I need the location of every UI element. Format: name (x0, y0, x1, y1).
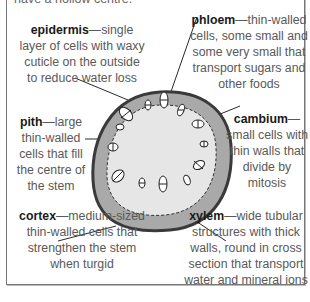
label-pith: pith—large thin-walled cells that fill t… (12, 114, 90, 194)
term-cambium: cambium (234, 112, 288, 126)
label-xylem: xylem—wide tubular structures with thick… (183, 208, 309, 288)
label-cambium: cambium— small cells with thin walls tha… (226, 111, 308, 191)
label-epidermis: epidermis—single layer of cells with wax… (14, 22, 150, 86)
term-epidermis: epidermis (31, 23, 89, 37)
term-pith: pith (20, 115, 43, 129)
term-cortex: cortex (19, 209, 56, 223)
term-phloem: phloem (192, 13, 236, 27)
label-phloem: phloem—thin-walled cells, some small and… (190, 12, 308, 92)
term-xylem: xylem (189, 209, 224, 223)
label-cortex: cortex—medium-sized thin-walled cells th… (14, 208, 150, 272)
